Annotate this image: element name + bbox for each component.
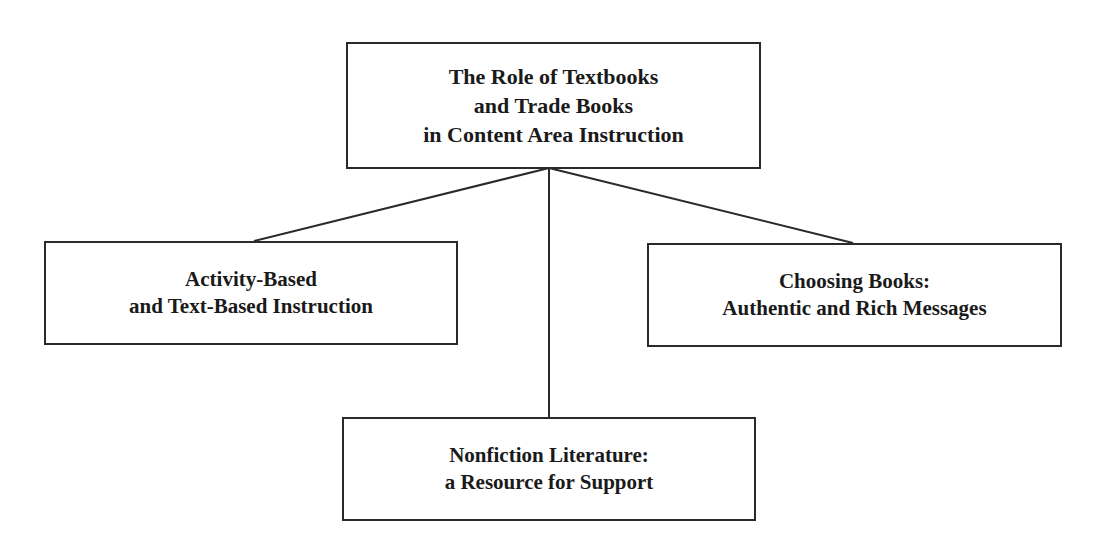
nonfiction-literature-node: Nonfiction Literature: a Resource for Su… bbox=[342, 417, 756, 521]
activity-based-node-line-2: and Text-Based Instruction bbox=[129, 293, 373, 320]
edge-root-to-right bbox=[549, 168, 853, 243]
root-node-line-1: The Role of Textbooks bbox=[449, 62, 659, 91]
root-node-line-2: and Trade Books bbox=[474, 91, 633, 120]
root-node: The Role of Textbooks and Trade Books in… bbox=[346, 42, 761, 169]
root-node-line-3: in Content Area Instruction bbox=[423, 120, 684, 149]
activity-based-node-line-1: Activity-Based bbox=[185, 266, 317, 293]
edge-root-to-left bbox=[254, 168, 549, 241]
activity-based-node: Activity-Based and Text-Based Instructio… bbox=[44, 241, 458, 345]
diagram-canvas: The Role of Textbooks and Trade Books in… bbox=[0, 0, 1112, 548]
choosing-books-node: Choosing Books: Authentic and Rich Messa… bbox=[647, 243, 1062, 347]
nonfiction-literature-node-line-2: a Resource for Support bbox=[445, 469, 654, 496]
choosing-books-node-line-2: Authentic and Rich Messages bbox=[722, 295, 986, 322]
choosing-books-node-line-1: Choosing Books: bbox=[779, 268, 930, 295]
nonfiction-literature-node-line-1: Nonfiction Literature: bbox=[449, 442, 649, 469]
